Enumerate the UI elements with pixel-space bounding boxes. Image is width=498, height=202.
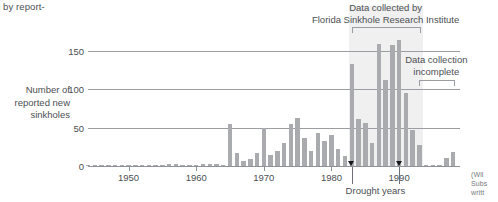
bar-1965 <box>228 124 232 166</box>
credit-line-1: (Wil <box>471 170 487 179</box>
bar-1988 <box>383 80 387 166</box>
bar-1968 <box>248 159 252 166</box>
bar-1993 <box>417 145 421 166</box>
bar-1998 <box>451 152 455 166</box>
y-tick-label-50: 50 <box>60 122 84 133</box>
x-tick-1970 <box>264 166 265 171</box>
bar-1985 <box>363 123 367 166</box>
bar-1984 <box>356 119 360 166</box>
drought-stem-1983 <box>352 167 353 184</box>
bar-1975 <box>295 118 299 166</box>
bar-1976 <box>302 138 306 166</box>
bar-1990 <box>397 40 401 166</box>
bar-1983 <box>350 64 354 166</box>
drought-stem-1990 <box>399 167 400 184</box>
bar-1979 <box>322 141 326 166</box>
bar-1989 <box>390 45 394 166</box>
y-tick-label-0: 0 <box>60 161 84 172</box>
fsri-annotation-bracket <box>352 27 422 33</box>
fsri-annotation-line-2: Florida Sinkhole Research Institute <box>312 14 459 26</box>
bar-1997 <box>444 158 448 166</box>
data-incomplete-line-2: incomplete <box>405 66 467 78</box>
bar-1971 <box>268 155 272 166</box>
bar-series <box>88 32 460 166</box>
sinkhole-bar-chart-figure: cted by report- Number of reported new s… <box>0 0 498 202</box>
credit-line-3: writt <box>471 188 487 197</box>
bar-1974 <box>289 124 293 166</box>
bar-1966 <box>235 153 239 166</box>
bar-1986 <box>370 143 374 166</box>
x-tick-label-1950: 1950 <box>118 172 139 183</box>
fsri-annotation-line-1: Data collected by <box>312 2 459 14</box>
x-tick-1950 <box>129 166 130 171</box>
x-tick-label-1970: 1970 <box>253 172 274 183</box>
bar-1970 <box>262 128 266 166</box>
bar-1980 <box>329 135 333 166</box>
drought-years-label: Drought years <box>346 185 406 196</box>
plot-area <box>88 32 460 166</box>
bar-1972 <box>275 151 279 166</box>
x-tick-1960 <box>196 166 197 171</box>
bar-1981 <box>336 149 340 166</box>
x-tick-label-1960: 1960 <box>186 172 207 183</box>
data-incomplete-bracket <box>419 80 455 86</box>
data-incomplete-line-1: Data collection <box>405 54 467 66</box>
y-axis-ticks: 050100150 <box>58 32 84 166</box>
bar-1978 <box>316 133 320 166</box>
x-tick-1980 <box>331 166 332 171</box>
bar-1973 <box>282 143 286 166</box>
clipped-caption-top: cted by report- <box>0 1 45 12</box>
bar-1969 <box>255 153 259 166</box>
credit-line-2: Subs <box>471 179 487 188</box>
bar-1982 <box>343 156 347 166</box>
y-tick-label-150: 150 <box>60 46 84 57</box>
bar-1977 <box>309 151 313 166</box>
bar-1987 <box>377 44 381 167</box>
x-tick-label-1980: 1980 <box>321 172 342 183</box>
bar-1991 <box>404 93 408 166</box>
drought-marker-1983 <box>348 161 354 166</box>
clipped-credit-text: (Wil Subs writt <box>471 170 487 197</box>
drought-marker-1990 <box>396 161 402 166</box>
y-tick-label-100: 100 <box>60 84 84 95</box>
bar-1992 <box>410 130 414 166</box>
